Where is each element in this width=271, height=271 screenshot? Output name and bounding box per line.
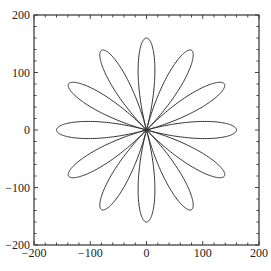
y-tick-label: 100: [12, 66, 30, 80]
x-tick-label: −100: [78, 246, 103, 260]
y-tick-label: −200: [5, 238, 30, 252]
y-tick-label: 0: [24, 123, 30, 137]
x-tick-label: 200: [250, 246, 268, 260]
polar-rose-chart: −200−1000100200−200−1000100200: [0, 0, 271, 271]
x-tick-label: 0: [144, 246, 150, 260]
y-tick-label: −100: [5, 181, 30, 195]
y-tick-label: 200: [12, 8, 30, 22]
x-tick-label: 100: [194, 246, 212, 260]
rose-curve: [57, 38, 237, 222]
tick-labels: −200−1000100200−200−1000100200: [5, 8, 268, 260]
